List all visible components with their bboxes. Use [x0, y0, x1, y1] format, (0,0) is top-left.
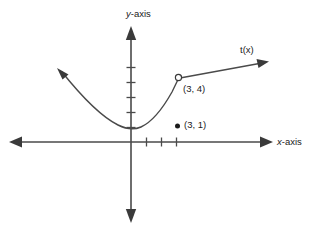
- y-axis-top-arrowhead: [126, 26, 136, 40]
- y-axis-label-rest: -axis: [131, 8, 151, 19]
- x-axis-label: x-axis: [277, 137, 302, 147]
- filled-dot-marker: [175, 124, 180, 129]
- coordinate-plane-svg: [0, 0, 314, 238]
- open-circle-marker: [175, 74, 181, 80]
- linear-branch-arrowhead: [257, 59, 270, 68]
- linear-branch-segment: [180, 63, 262, 78]
- closed-point-coordinate-label: (3, 1): [184, 120, 206, 130]
- parabolic-curve-branch: [62, 72, 179, 129]
- x-axis-right-arrowhead: [260, 137, 273, 148]
- x-axis-left-arrowhead: [9, 137, 22, 148]
- x-axis-label-rest: -axis: [282, 136, 302, 147]
- y-axis-bottom-arrowhead: [126, 209, 136, 223]
- y-axis-label: y-axis: [126, 9, 151, 19]
- function-label: t(x): [240, 45, 254, 55]
- open-point-coordinate-label: (3, 4): [183, 84, 205, 94]
- graph-figure: y-axis x-axis t(x) (3, 4) (3, 1): [0, 0, 314, 238]
